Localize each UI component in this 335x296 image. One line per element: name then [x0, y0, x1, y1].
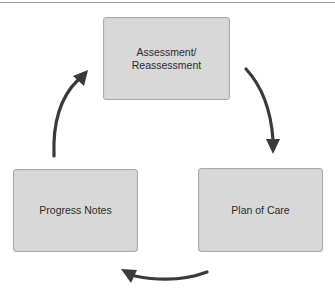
arrow-assessment-to-plan-icon	[246, 69, 280, 154]
cycle-arrows	[0, 0, 335, 296]
arrow-plan-to-progress-icon	[121, 269, 207, 283]
arrow-progress-to-assessment-icon	[54, 70, 88, 156]
